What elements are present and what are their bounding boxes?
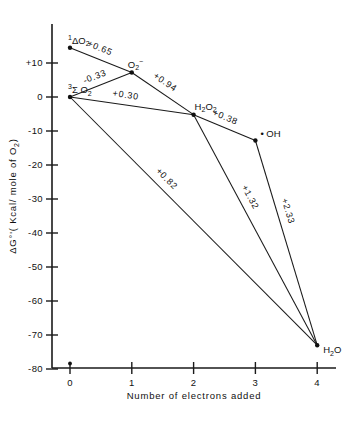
x-tick-label: 4 xyxy=(314,377,320,388)
y-tick-label: +10 xyxy=(26,57,43,68)
y-axis-title: ΔG°'( Kcal/ mole of O2) xyxy=(7,138,20,254)
edges-group xyxy=(70,48,317,346)
edge-label-triplet-to-peroxide: +0.30 xyxy=(112,88,139,102)
node-point-superoxide xyxy=(130,70,134,74)
y-tick-label: -30 xyxy=(28,193,43,204)
y-axis-ticks: +100-10-20-30-40-50-60-70-80 xyxy=(26,57,58,374)
node-point-hydrogen_peroxide xyxy=(191,112,195,116)
node-label-triplet_o2: 3Σ O2 xyxy=(68,83,92,97)
node-point-water xyxy=(315,343,319,347)
x-axis-ticks: 01234 xyxy=(67,362,320,388)
x-tick-label: 3 xyxy=(253,377,259,388)
y-tick-label: -40 xyxy=(28,227,43,238)
chart-canvas: +100-10-20-30-40-50-60-70-80 01234 +0.65… xyxy=(0,0,355,421)
node-label-hydroxyl_radical: • OH xyxy=(260,128,280,139)
node-label-hydrogen_peroxide: H2O2 xyxy=(195,101,217,114)
edge-label-triplet-to-superoxide: -0.33 xyxy=(82,67,108,85)
node-label-singlet_o2: 1ΔO2 xyxy=(68,34,90,48)
x-tick-label: 2 xyxy=(191,377,197,388)
y-tick-label: -70 xyxy=(28,329,43,340)
y-tick-label: 0 xyxy=(37,91,43,102)
node-label-water: H2O xyxy=(323,344,341,357)
edge-label-hydroxyl-to-water: +2.33 xyxy=(280,197,297,225)
y-tick-label: -10 xyxy=(28,125,43,136)
edge-label-singlet-to-superoxide: +0.65 xyxy=(86,38,114,57)
y-tick-label: -60 xyxy=(28,295,43,306)
y-tick-label: -80 xyxy=(28,363,43,374)
edge-label-superoxide-to-peroxide: +0.94 xyxy=(152,70,179,93)
node-labels-group: 1ΔO23Σ O2O2−H2O2• OHH2O xyxy=(68,34,341,357)
x-tick-label: 0 xyxy=(67,377,73,388)
node-point-triplet_o2 xyxy=(68,95,72,99)
node-point-singlet_o2 xyxy=(68,46,72,50)
edge-line-peroxide-to-water xyxy=(194,115,318,346)
x-tick-label: 1 xyxy=(129,377,135,388)
x-axis-title: Number of electrons added xyxy=(127,390,262,401)
y-tick-label: -50 xyxy=(28,261,43,272)
y-tick-label: -20 xyxy=(28,159,43,170)
node-label-superoxide: O2− xyxy=(128,58,143,71)
edge-label-triplet-to-water: +0.82 xyxy=(154,166,180,192)
origin-marker-dot xyxy=(68,362,72,366)
thermodynamic-potential-diagram: +100-10-20-30-40-50-60-70-80 01234 +0.65… xyxy=(0,0,355,421)
nodes-group xyxy=(68,46,320,348)
node-point-hydroxyl_radical xyxy=(253,138,257,142)
